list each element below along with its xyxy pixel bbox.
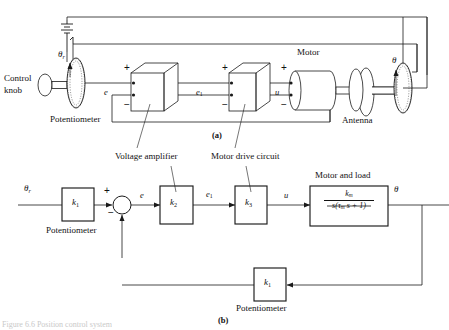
part-b-caption: (b) xyxy=(218,316,228,325)
amp-terminal-minus xyxy=(132,93,135,96)
error-signal-label: e xyxy=(140,191,144,200)
motor-label: Motor xyxy=(297,48,320,57)
mdc-terminal-plus xyxy=(230,81,233,84)
gain-k1-feedback: k1 xyxy=(264,278,271,288)
theta-out-label-block: θ xyxy=(394,185,398,194)
theta-out-label-schematic: θ xyxy=(392,56,396,65)
theta-r-label-block: θr xyxy=(24,184,31,194)
motor-terminal-minus xyxy=(289,93,292,96)
signal-e1-label-block: e1 xyxy=(206,190,213,200)
feedback-potentiometer-caption: Potentiometer xyxy=(236,304,287,313)
supply-top-wire xyxy=(67,17,427,75)
gain-k3: k3 xyxy=(245,198,252,208)
part-a-caption: (a) xyxy=(212,131,222,140)
voltage-amplifier-caption: Voltage amplifier xyxy=(115,152,178,161)
theta-r-label-schematic: θr xyxy=(58,50,65,60)
motor-drive-circuit-box xyxy=(229,63,270,111)
signal-e1-label-schematic: e1 xyxy=(196,88,203,98)
amp-plus-sign: + xyxy=(124,63,130,74)
motor-body xyxy=(289,71,336,110)
battery-icon xyxy=(61,20,73,52)
input-potentiometer-caption: Potentiometer xyxy=(46,226,97,235)
antenna-discs xyxy=(349,68,374,116)
sum-minus-sign: − xyxy=(108,208,114,219)
transfer-function-numerator: km xyxy=(324,190,374,201)
gain-k1-input: k1 xyxy=(72,198,79,208)
figure-bottom-caption: Figure 6.6 Position control system xyxy=(2,320,112,329)
signal-u-label-schematic: u xyxy=(275,88,279,97)
motor-minus-sign: − xyxy=(281,100,287,111)
signal-u-label-block: u xyxy=(284,191,288,200)
transfer-function: km s(τm s + 1) xyxy=(324,190,374,211)
position-control-system-figure xyxy=(0,0,449,330)
motor-terminal-plus xyxy=(289,81,292,84)
motor-and-load-caption: Motor and load xyxy=(315,171,371,180)
transfer-function-denominator: s(τm s + 1) xyxy=(324,201,374,211)
mdc-plus-sign: + xyxy=(222,63,228,74)
motor-drive-circuit-caption: Motor drive circuit xyxy=(211,152,279,161)
mdc-terminal-minus xyxy=(230,93,233,96)
pot-right-lead-outer xyxy=(412,17,427,88)
amp-minus-sign: − xyxy=(124,100,130,111)
motor-plus-sign: + xyxy=(281,63,287,74)
control-knob xyxy=(38,74,67,96)
control-knob-label-line2: knob xyxy=(4,86,22,95)
voltage-amplifier-box xyxy=(131,63,178,111)
potentiometer-left-label: Potentiometer xyxy=(50,115,101,124)
mdc-minus-sign: − xyxy=(222,100,228,111)
antenna-shaft-fill xyxy=(372,87,396,94)
amp-terminal-plus xyxy=(132,81,135,84)
sum-plus-sign: + xyxy=(104,186,110,197)
control-knob-label-line1: Control xyxy=(4,74,32,83)
signal-e-label-schematic: e xyxy=(104,88,108,97)
antenna-label: Antenna xyxy=(342,116,373,125)
summing-junction xyxy=(113,196,131,214)
gain-k2: k2 xyxy=(170,198,177,208)
